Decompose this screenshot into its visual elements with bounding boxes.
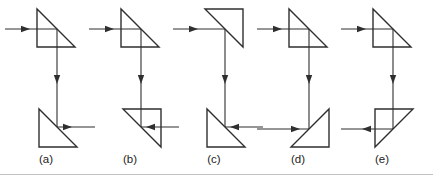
top-prism: [37, 9, 75, 47]
top-prism: [289, 9, 327, 47]
panel-label: (c): [207, 153, 221, 165]
vertical-beam-arrowhead-icon: [390, 75, 396, 84]
bottom-prism: [375, 109, 413, 147]
panel-label: (d): [291, 153, 305, 165]
panel-e: (e): [341, 9, 413, 165]
output-beam-arrowhead-icon: [63, 124, 72, 130]
bottom-prism: [207, 109, 245, 147]
output-beam-arrowhead-icon: [291, 126, 300, 132]
output-beam-arrowhead-icon: [146, 124, 155, 130]
top-prism: [121, 9, 159, 47]
input-beam-arrowhead-icon: [273, 26, 282, 32]
vertical-beam-arrowhead-icon: [222, 75, 228, 84]
panel-label: (e): [375, 153, 389, 165]
input-beam-arrowhead-icon: [189, 26, 198, 32]
panel-a: (a): [5, 9, 95, 165]
vertical-beam-arrowhead-icon: [54, 75, 60, 84]
output-beam-arrowhead-icon: [230, 124, 239, 130]
prism-figure: (a)(b)(c)(d)(e): [0, 0, 433, 175]
vertical-beam-arrowhead-icon: [138, 75, 144, 84]
bottom-prism: [123, 109, 161, 147]
panel-label: (a): [39, 153, 53, 165]
panel-b: (b): [89, 9, 179, 165]
top-prism: [373, 9, 411, 47]
vertical-beam-arrowhead-icon: [306, 75, 312, 84]
input-beam-arrowhead-icon: [357, 26, 366, 32]
bottom-prism: [39, 109, 77, 147]
panel-d: (d): [257, 9, 329, 165]
output-beam-arrowhead-icon: [362, 126, 371, 132]
prism-diagram-canvas: (a)(b)(c)(d)(e): [0, 0, 433, 175]
input-beam-arrowhead-icon: [105, 26, 114, 32]
input-beam-arrowhead-icon: [21, 26, 30, 32]
panel-label: (b): [123, 153, 137, 165]
panel-c: (c): [173, 9, 263, 165]
top-prism: [205, 9, 243, 47]
